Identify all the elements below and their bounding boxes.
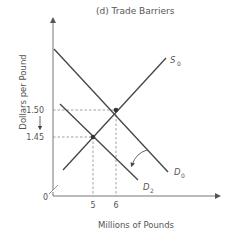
equilibrium-point-new xyxy=(91,135,96,140)
label-d0: D 0 xyxy=(174,167,185,179)
svg-text:S: S xyxy=(170,55,176,65)
y-axis xyxy=(49,20,58,196)
x-tick-5: 5 xyxy=(90,201,95,210)
svg-text:D: D xyxy=(143,182,150,192)
demand-curve-d2 xyxy=(60,104,138,180)
svg-text:0: 0 xyxy=(181,172,185,179)
origin-label: 0 xyxy=(43,193,48,202)
svg-text:2: 2 xyxy=(150,187,154,194)
label-s0: S 0 xyxy=(170,55,181,67)
demand-shift-arrow-icon xyxy=(132,150,147,165)
svg-text:D: D xyxy=(174,167,181,177)
x-axis-label: Millions of Pounds xyxy=(98,220,175,230)
y-axis-label: Dollars per Pound xyxy=(18,54,28,129)
x-tick-6: 6 xyxy=(113,201,118,210)
equilibrium-point-original xyxy=(114,108,119,113)
svg-text:0: 0 xyxy=(177,60,181,67)
label-d2: D 2 xyxy=(143,182,154,194)
chart-title: (d) Trade Barriers xyxy=(96,6,175,16)
y-tick-145: 1.45 xyxy=(26,133,44,142)
trade-barriers-chart: (d) Trade Barriers Dollars per Pound Mil… xyxy=(0,0,234,233)
y-tick-150: 1.50 xyxy=(26,106,44,115)
